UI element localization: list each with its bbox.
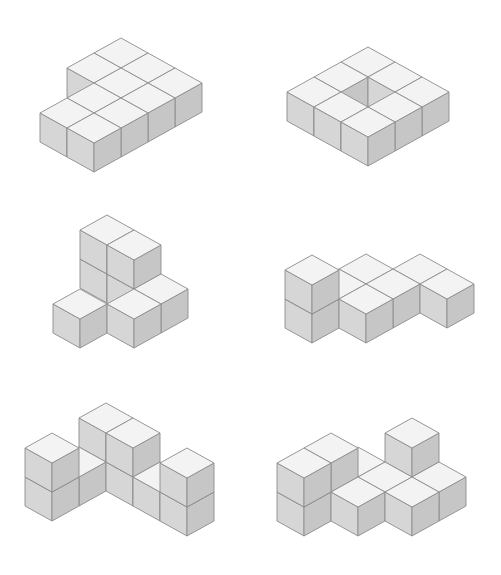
figure-6 [277,418,466,536]
cube-diagram [0,0,501,575]
figure-3 [53,215,188,348]
figure-2 [287,47,449,166]
figure-1 [40,38,202,172]
figure-5 [25,403,214,536]
figure-4 [285,254,474,343]
